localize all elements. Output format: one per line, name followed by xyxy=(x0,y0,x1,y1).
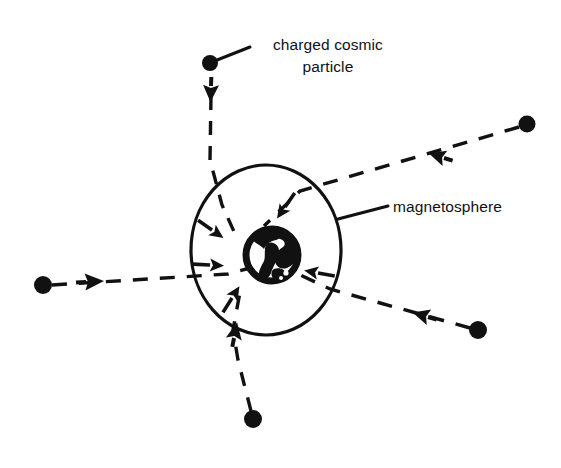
label-charged-cosmic-particle-line2: particle xyxy=(303,58,354,75)
earth-globe xyxy=(246,229,298,281)
earth-dot-2 xyxy=(279,276,283,280)
arrowhead-particle-left xyxy=(76,273,105,291)
particle-dot-left xyxy=(34,276,52,294)
trajectory-particle-top xyxy=(210,96,236,236)
arrowhead-particle-bottom-right xyxy=(410,305,438,327)
deflection-arrow-left xyxy=(193,258,225,273)
particle-dot-bottom xyxy=(244,410,262,428)
magnetosphere-diagram: charged cosmic particle magnetosphere xyxy=(0,0,561,468)
deflection-arrow-upper-left xyxy=(194,215,227,243)
earth-landmass-south xyxy=(271,268,286,280)
particle-dot-bottom-right xyxy=(469,321,487,339)
trajectory-particle-bottom-right xyxy=(292,271,470,328)
trajectory-particle-bottom xyxy=(233,292,251,411)
arrowhead-particle-top xyxy=(202,77,219,103)
deflection-arrows xyxy=(193,189,336,316)
diagram-canvas: charged cosmic particle magnetosphere xyxy=(0,0,561,468)
leader-line-particle xyxy=(212,47,250,62)
particle-dot-top xyxy=(202,55,218,71)
earth-dot-1 xyxy=(283,270,288,275)
deflection-arrow-lower-left xyxy=(217,283,244,316)
leader-line-magnetosphere xyxy=(338,206,388,219)
label-magnetosphere: magnetosphere xyxy=(393,198,502,215)
deflection-arrow-top xyxy=(272,189,300,222)
particle-dot-top-right xyxy=(519,116,536,133)
label-charged-cosmic-particle-line1: charged cosmic xyxy=(273,36,383,53)
